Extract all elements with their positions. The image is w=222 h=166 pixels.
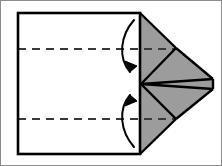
- figure-container: [0, 0, 222, 166]
- apex-point: [139, 82, 142, 85]
- paper-folding-diagram: [0, 0, 222, 166]
- sheet-body: [18, 13, 140, 154]
